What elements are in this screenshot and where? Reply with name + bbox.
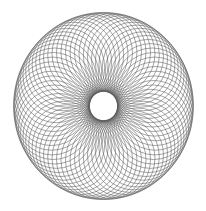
figure-container <box>0 0 206 211</box>
spirograph-rosette <box>0 0 206 211</box>
